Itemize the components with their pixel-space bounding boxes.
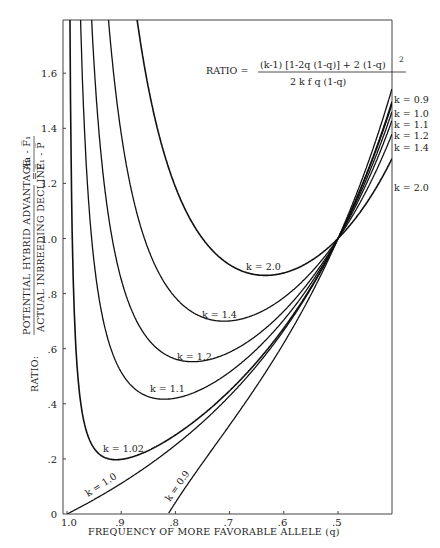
curve-end-label: k = 2.0 <box>394 182 429 193</box>
formula-lhs: RATIO = <box>206 65 248 76</box>
y-tick-label: 1.6 <box>41 68 57 79</box>
y-tick-label: .2 <box>47 454 57 465</box>
x-tick-label: 1.0 <box>61 517 77 528</box>
curve-end-label: k = 1.1 <box>394 119 429 130</box>
formula-denominator: 2 k f q (1-q) <box>290 76 346 87</box>
chart: 1.0.9.8.7.6.5 0.2.4.6.81.01.21.41.6 k = … <box>0 0 440 548</box>
y-tick-label: .8 <box>47 289 57 300</box>
curve-2-0 <box>67 0 392 275</box>
curve-0-9 <box>169 89 392 513</box>
curve-label: k = 1.2 <box>177 351 212 362</box>
curve-1-2 <box>67 0 392 362</box>
curve-label: k = 1.4 <box>202 309 237 320</box>
y-tick-label: 1.4 <box>41 123 57 134</box>
curve-label: k = 1.0 <box>83 470 118 498</box>
y-axis-label-alt-denominator: F̅₁ - P̅ <box>35 142 46 170</box>
y-axis-label-prefix: RATIO: <box>29 356 40 392</box>
curve-end-label: k = 1.4 <box>394 142 429 153</box>
curve-label: k = 1.1 <box>150 383 185 394</box>
formula-exponent: 2 <box>399 55 404 64</box>
curve-end-label: k = 1.0 <box>394 108 429 119</box>
y-axis-label: RATIO: POTENTIAL HYBRID ADVANTAGE ACTUAL… <box>21 136 46 392</box>
curve-label: k = 2.0 <box>246 261 281 272</box>
y-tick-label: 0 <box>51 509 57 520</box>
plot-frame <box>63 20 392 514</box>
y-axis-label-equals: = <box>29 172 40 180</box>
x-axis-label: FREQUENCY OF MORE FAVORABLE ALLELE (q) <box>88 526 340 537</box>
y-tick-label: .4 <box>47 399 57 410</box>
y-axis-label-alt-numerator: Aa - F̅₁ <box>21 136 32 171</box>
curve-labels: k = 0.9k = 0.9k = 1.0k = 1.0k = 1.02k = … <box>83 94 429 503</box>
curve-end-label: k = 0.9 <box>394 94 429 105</box>
y-axis-label-denominator: ACTUAL INBREEDING DECLINE <box>35 163 46 333</box>
curve-1-4 <box>67 0 392 321</box>
curve-end-label: k = 1.2 <box>394 130 429 141</box>
formula-numerator: (k-1) [1-2q (1-q)] + 2 (1-q) <box>260 59 386 70</box>
curve-label: k = 1.02 <box>103 443 144 454</box>
formula: RATIO = (k-1) [1-2q (1-q)] + 2 (1-q) 2 2… <box>206 55 406 87</box>
y-axis-label-numerator: POTENTIAL HYBRID ADVANTAGE <box>21 159 32 335</box>
frame-border <box>63 20 392 514</box>
y-tick-label: .6 <box>47 344 57 355</box>
